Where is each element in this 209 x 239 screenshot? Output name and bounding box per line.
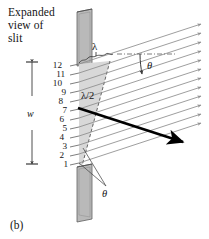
wavelength-label: λ <box>92 40 97 52</box>
ray-origin-ticks <box>70 64 79 165</box>
ray-label-10: 10 <box>48 79 62 88</box>
panel-label: (b) <box>10 219 23 231</box>
barrier-bottom <box>77 164 92 222</box>
half-wavelength-label: λ/2 <box>81 90 94 101</box>
theta-label-top: θ <box>147 60 152 71</box>
ray-label-2: 2 <box>50 151 64 160</box>
ray-11 <box>79 33 201 73</box>
slit-width-label: w <box>27 108 34 119</box>
ray-label-8: 8 <box>49 97 63 106</box>
ray-3 <box>79 105 201 145</box>
diagram-canvas <box>0 0 209 239</box>
theta-label-bottom: θ <box>102 188 107 199</box>
ray-2 <box>79 114 201 154</box>
ray-label-1: 1 <box>54 160 68 169</box>
diffraction-figure: Expanded view of slit <box>0 0 209 239</box>
barrier-top <box>77 9 92 66</box>
